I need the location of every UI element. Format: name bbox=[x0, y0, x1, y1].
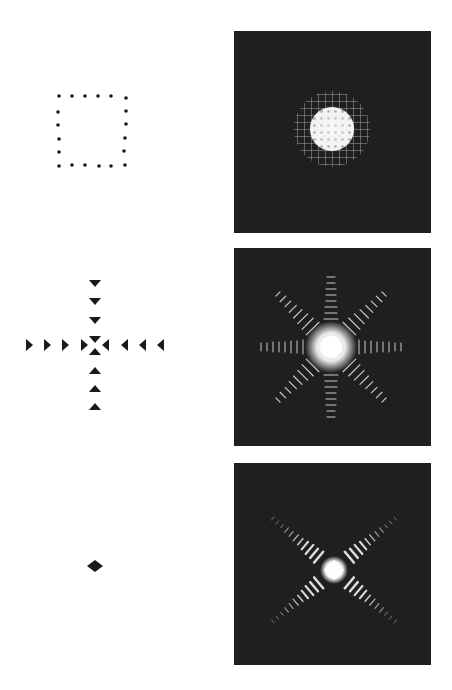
diffraction-panel-x-cross bbox=[234, 463, 431, 665]
diffraction-panel-star bbox=[234, 248, 431, 446]
diffraction-panel-grid-disc bbox=[234, 31, 431, 233]
row-1 bbox=[0, 0, 452, 240]
cross-triangle-aperture bbox=[20, 275, 170, 420]
diamond-aperture bbox=[85, 559, 105, 573]
row-3 bbox=[0, 455, 452, 690]
row-2 bbox=[0, 240, 452, 455]
square-dot-aperture bbox=[50, 90, 135, 170]
